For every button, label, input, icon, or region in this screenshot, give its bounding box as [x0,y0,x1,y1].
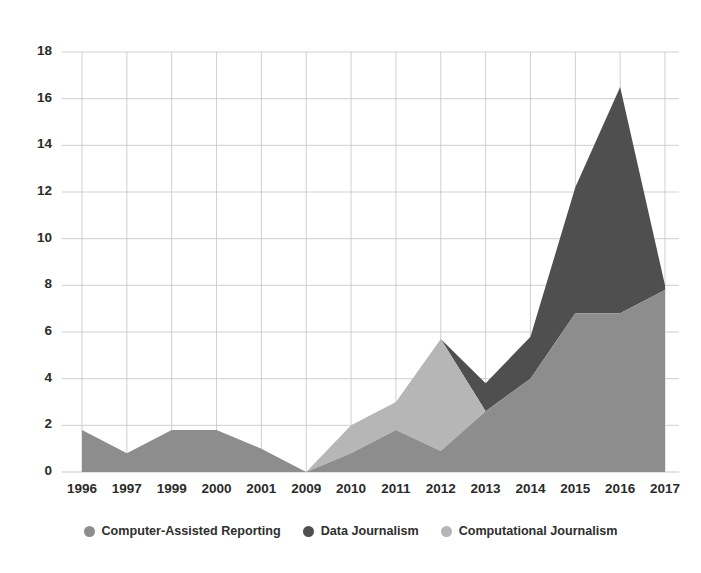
x-axis-tick-label: 2017 [637,481,693,496]
series-areas [82,87,665,472]
legend-dot-icon [441,526,452,537]
legend-dot-icon [84,526,95,537]
legend-item[interactable]: Computational Journalism [441,524,618,538]
legend-label: Data Journalism [321,524,419,538]
chart-legend: Computer-Assisted ReportingData Journali… [0,524,701,538]
legend-label: Computational Journalism [459,524,618,538]
legend-item[interactable]: Computer-Assisted Reporting [84,524,281,538]
legend-label: Computer-Assisted Reporting [102,524,281,538]
series-area [82,290,665,472]
area-chart: 024681012141618 199619971999200020012009… [0,0,701,573]
legend-item[interactable]: Data Journalism [303,524,419,538]
legend-dot-icon [303,526,314,537]
